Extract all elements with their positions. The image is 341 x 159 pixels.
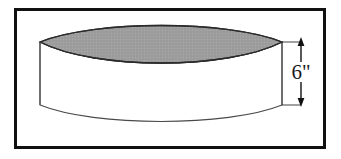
height-dimension-label: 6" [291,60,310,84]
figure-drawing: 6" [0,0,341,159]
figure-container: 6" [0,0,341,159]
